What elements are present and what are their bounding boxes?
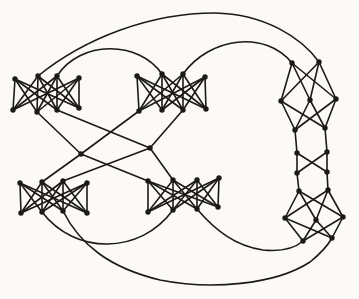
graph-node <box>202 74 207 79</box>
graph-node <box>170 177 175 182</box>
graph-node <box>180 71 185 76</box>
graph-edge <box>137 76 139 111</box>
graph-node <box>307 97 312 102</box>
graph-node <box>84 180 89 185</box>
graph-node <box>324 169 329 174</box>
graph-edge <box>13 79 15 110</box>
graph-node <box>194 206 199 211</box>
graph-node <box>289 60 294 65</box>
graph-node <box>216 175 221 180</box>
graph-edge <box>42 154 81 182</box>
graph-node <box>313 217 318 222</box>
graph-node <box>294 170 299 175</box>
graph-node <box>10 107 15 112</box>
graph-node <box>35 73 40 78</box>
graph-edge <box>183 42 292 74</box>
graph-node <box>54 73 59 78</box>
graph-edge <box>218 178 219 207</box>
graph-edge <box>57 110 150 148</box>
graph-node <box>34 109 39 114</box>
graph-node <box>54 107 59 112</box>
graph-node <box>180 107 185 112</box>
graph-node <box>325 187 330 192</box>
graph-node <box>282 215 287 220</box>
graph-edge <box>319 62 336 99</box>
graph-node <box>333 96 338 101</box>
graph-node <box>296 188 301 193</box>
graph-node <box>60 178 65 183</box>
graph-edge <box>297 173 299 191</box>
graph-edge <box>150 148 173 180</box>
graph-node <box>60 208 65 213</box>
graph-canvas <box>0 0 359 299</box>
graph-node <box>278 98 283 103</box>
graph-node <box>39 179 44 184</box>
graph-edge <box>38 13 319 76</box>
graph-node <box>84 210 89 215</box>
graph-node <box>145 209 150 214</box>
graph-node <box>322 125 327 130</box>
graph-node <box>340 214 345 219</box>
graph-edge <box>295 130 297 153</box>
graph-edge <box>325 128 327 152</box>
graph-edge <box>42 210 173 244</box>
graph-edge <box>205 77 206 109</box>
graph-edge <box>150 110 183 148</box>
edge-layer <box>13 13 343 285</box>
graph-node <box>159 107 164 112</box>
graph-edge <box>37 76 38 112</box>
graph-node <box>76 105 81 110</box>
graph-node <box>324 149 329 154</box>
scanned-graph-figure <box>0 0 359 299</box>
graph-node <box>145 178 150 183</box>
graph-node <box>136 108 141 113</box>
graph-node <box>300 238 305 243</box>
graph-node <box>17 180 22 185</box>
graph-node <box>12 76 17 81</box>
graph-edge <box>20 183 21 213</box>
graph-node <box>215 204 220 209</box>
graph-node <box>316 59 321 64</box>
graph-node <box>194 177 199 182</box>
graph-node <box>329 235 334 240</box>
graph-node <box>134 73 139 78</box>
graph-node <box>294 150 299 155</box>
graph-node <box>292 127 297 132</box>
graph-node <box>76 75 81 80</box>
graph-node <box>203 106 208 111</box>
graph-edge <box>81 154 148 181</box>
graph-node <box>18 210 23 215</box>
graph-node <box>147 145 152 150</box>
graph-edge <box>37 112 81 154</box>
graph-edge <box>327 172 328 190</box>
graph-node <box>78 151 83 156</box>
graph-node <box>39 209 44 214</box>
graph-node <box>159 71 164 76</box>
graph-node <box>170 207 175 212</box>
